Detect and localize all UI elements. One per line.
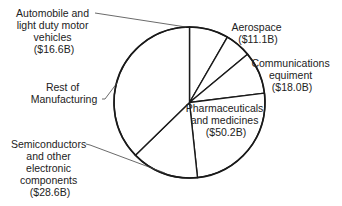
label-aerospace: Aerospace ($11.1B) xyxy=(231,21,284,45)
label-semiconductors: Semiconductors and other electronic comp… xyxy=(11,138,89,198)
label-rest-of-manufacturing: Rest of Manufacturing xyxy=(31,81,98,105)
label-automobile: Automobile and light duty motor vehicles… xyxy=(16,7,92,55)
leader-automobile xyxy=(95,13,186,27)
pie-chart: Automobile and light duty motor vehicles… xyxy=(0,0,342,206)
